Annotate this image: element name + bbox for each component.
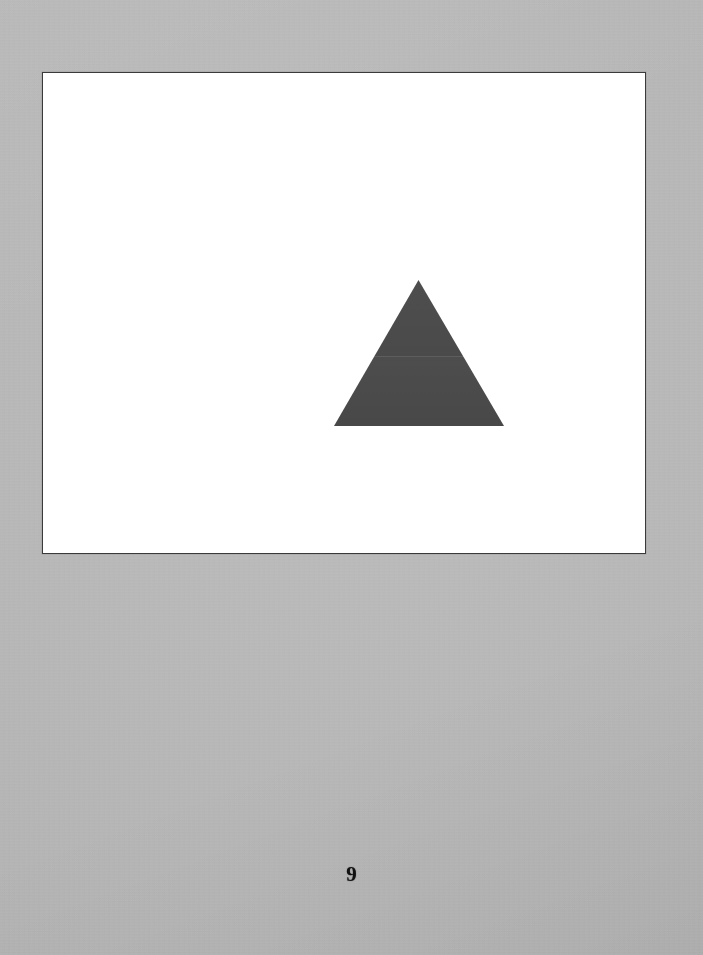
illustration-plate	[42, 72, 646, 554]
scanned-page: 9	[0, 0, 703, 955]
page-number: 9	[0, 864, 703, 885]
triangle-figure	[334, 280, 504, 426]
figure-layer	[43, 73, 645, 553]
